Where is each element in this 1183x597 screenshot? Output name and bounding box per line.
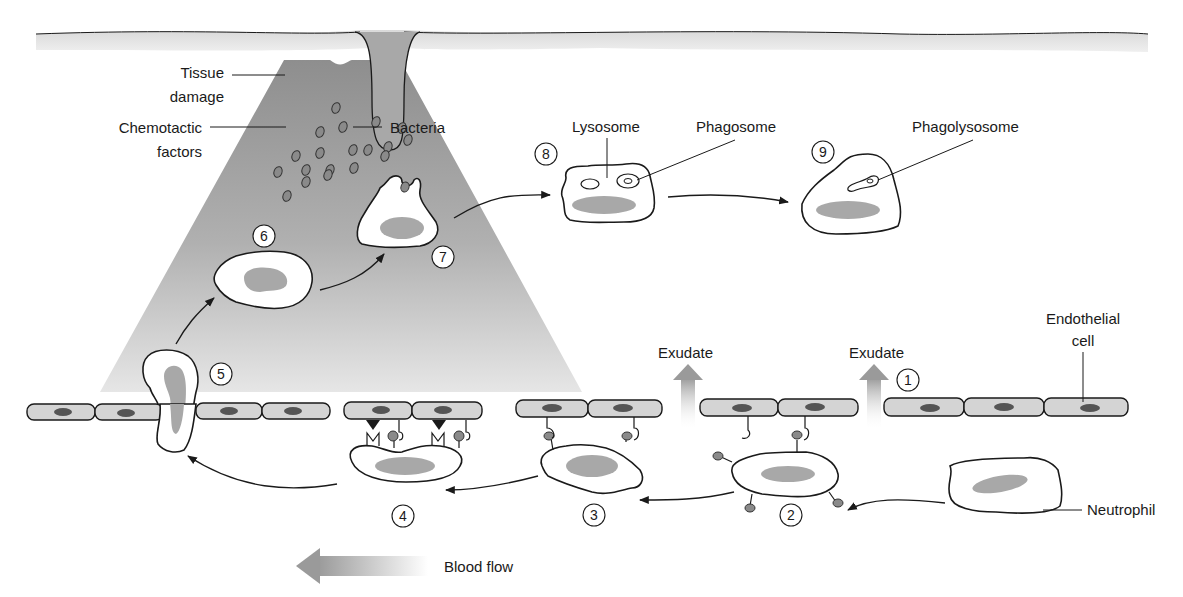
step-number-1: 1 bbox=[897, 369, 919, 391]
label-endothelial-1: Endothelial bbox=[1046, 310, 1120, 327]
endothelial-cell bbox=[964, 398, 1044, 416]
chemotactic-gradient-cone bbox=[100, 60, 582, 392]
svg-text:1: 1 bbox=[904, 372, 912, 388]
step-number-2: 2 bbox=[780, 504, 802, 526]
neutrophil-free bbox=[949, 458, 1062, 513]
lysosome bbox=[581, 179, 599, 189]
label-phagolysosome: Phagolysosome bbox=[912, 118, 1019, 135]
label-chemotactic-1: Chemotactic bbox=[119, 119, 203, 136]
svg-text:6: 6 bbox=[260, 228, 268, 244]
label-chemotactic-2: factors bbox=[157, 143, 202, 160]
step-number-3: 3 bbox=[583, 504, 605, 526]
step-number-8: 8 bbox=[535, 143, 557, 165]
arrow-4-to-5 bbox=[188, 456, 337, 488]
leader-phagosome bbox=[637, 140, 735, 180]
inflammation-diagram: Tissue damage Chemotactic factors Bacter… bbox=[0, 0, 1183, 597]
arrow-8-to-9 bbox=[668, 195, 788, 202]
step-number-6: 6 bbox=[253, 225, 275, 247]
endothelial-cell bbox=[344, 402, 412, 419]
endothelial-cell bbox=[27, 404, 95, 420]
blood-flow-arrow bbox=[296, 548, 428, 584]
exudate-arrow-2 bbox=[673, 364, 703, 430]
tissue-surface bbox=[36, 30, 1148, 52]
svg-text:8: 8 bbox=[542, 146, 550, 162]
endothelial-cell bbox=[778, 399, 858, 416]
endothelial-cell bbox=[1044, 398, 1128, 416]
neutrophil-step-9 bbox=[802, 154, 901, 234]
svg-text:7: 7 bbox=[439, 249, 447, 265]
svg-text:4: 4 bbox=[399, 508, 407, 524]
arrow-free-to-2 bbox=[848, 500, 945, 510]
svg-text:5: 5 bbox=[217, 366, 225, 382]
endothelial-cell bbox=[884, 398, 964, 416]
endothelial-cell bbox=[516, 400, 588, 417]
label-phagosome: Phagosome bbox=[696, 118, 776, 135]
endothelial-cell bbox=[588, 400, 662, 417]
label-bacteria: Bacteria bbox=[390, 119, 446, 136]
label-exudate-1: Exudate bbox=[849, 344, 904, 361]
endothelial-cell bbox=[262, 403, 330, 419]
step-number-5: 5 bbox=[210, 363, 232, 385]
label-tissue-damage-2: damage bbox=[170, 88, 224, 105]
arrow-2-to-3 bbox=[640, 492, 734, 500]
step-number-7: 7 bbox=[432, 246, 454, 268]
neutrophil-step-4 bbox=[350, 420, 470, 482]
arrow-3-to-4 bbox=[446, 476, 538, 490]
label-tissue-damage-1: Tissue bbox=[180, 64, 224, 81]
neutrophil-step-8 bbox=[562, 164, 655, 223]
endothelial-cell bbox=[196, 403, 262, 419]
endothelial-cell bbox=[700, 399, 778, 416]
label-neutrophil: Neutrophil bbox=[1087, 501, 1155, 518]
svg-text:3: 3 bbox=[590, 507, 598, 523]
exudate-arrow-1 bbox=[859, 364, 889, 430]
svg-text:2: 2 bbox=[787, 507, 795, 523]
step-number-9: 9 bbox=[812, 141, 834, 163]
endothelial-cell bbox=[412, 402, 482, 419]
label-endothelial-2: cell bbox=[1072, 332, 1095, 349]
neutrophil-step-3 bbox=[541, 417, 642, 493]
neutrophil-step-2 bbox=[713, 416, 843, 512]
label-exudate-2: Exudate bbox=[658, 344, 713, 361]
svg-text:9: 9 bbox=[819, 144, 827, 160]
step-number-4: 4 bbox=[392, 505, 414, 527]
endothelial-cell bbox=[95, 404, 163, 420]
leader-phagolysosome bbox=[878, 140, 973, 180]
label-blood-flow: Blood flow bbox=[444, 558, 513, 575]
label-lysosome: Lysosome bbox=[572, 118, 640, 135]
